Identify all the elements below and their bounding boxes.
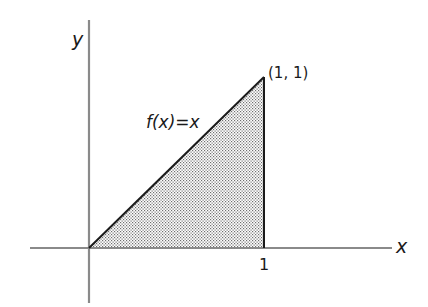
y-axis-label: y — [72, 30, 83, 49]
function-label: f(x)=x — [146, 114, 200, 131]
x-tick-label: 1 — [259, 257, 269, 273]
diagram-canvas: y x (1, 1) f(x)=x 1 — [0, 0, 428, 307]
diagram-svg — [0, 0, 428, 307]
x-axis-label: x — [396, 237, 407, 256]
point-label: (1, 1) — [268, 66, 308, 81]
